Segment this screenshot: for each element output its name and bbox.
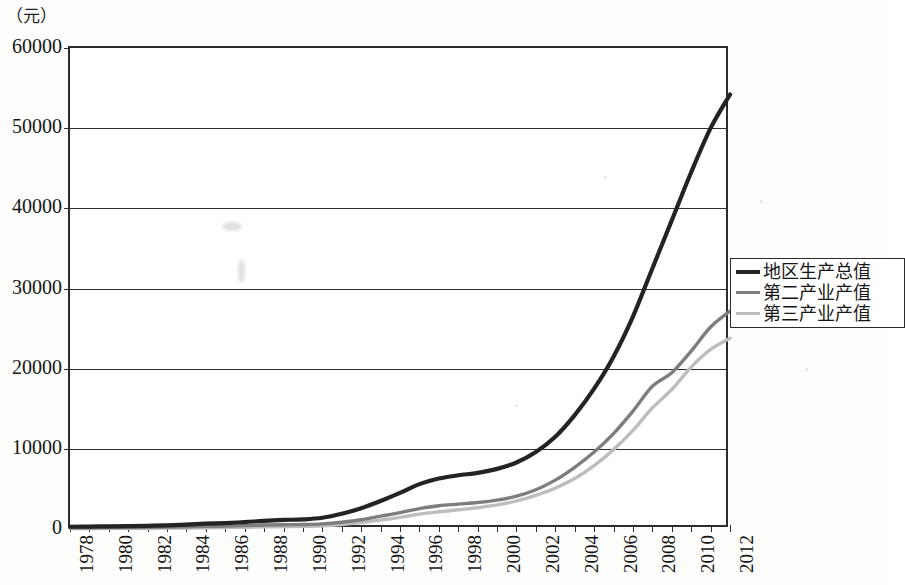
y-axis-tick-label: 50000 [0, 116, 62, 136]
x-axis-tick-label: 1992 [349, 535, 368, 573]
x-axis-tick-label: 1978 [77, 535, 96, 573]
x-axis-tick-labels: 1978198019821984198619881990199219941996… [68, 529, 728, 585]
legend-swatch-icon [736, 312, 760, 315]
legend-label: 第二产业产值 [763, 284, 871, 302]
legend-item[interactable]: 第三产业产值 [736, 303, 900, 324]
scan-speck [805, 368, 808, 371]
y-axis-tick-label: 40000 [0, 196, 62, 216]
legend-item[interactable]: 地区生产总值 [736, 261, 900, 282]
y-axis-tick-label: 20000 [0, 357, 62, 377]
legend-swatch-icon [736, 291, 760, 294]
x-axis-tick-label: 1984 [193, 535, 212, 573]
x-axis-tick-label: 2012 [737, 535, 756, 573]
series-lines [70, 48, 730, 529]
series-line [70, 311, 730, 528]
x-axis-tick-label: 2006 [621, 535, 640, 573]
x-axis-tick-label: 1986 [232, 535, 251, 573]
x-axis-tick-label: 1982 [155, 535, 174, 573]
chart-legend: 地区生产总值第二产业产值第三产业产值 [730, 258, 905, 328]
x-axis-tick-label: 1994 [388, 535, 407, 573]
legend-item[interactable]: 第二产业产值 [736, 282, 900, 303]
y-axis-tick-label: 30000 [0, 277, 62, 297]
y-axis-tick-label: 0 [0, 517, 62, 537]
x-axis-tick-label: 1980 [116, 535, 135, 573]
x-axis-tick-mark [730, 525, 731, 532]
y-axis-unit-label: （元） [6, 2, 57, 27]
y-axis-tick-label: 10000 [0, 437, 62, 457]
scan-speck [760, 200, 763, 203]
x-axis-tick-label: 1996 [426, 535, 445, 573]
series-line [70, 95, 730, 527]
y-axis-tick-label: 60000 [0, 36, 62, 56]
y-axis-tick-labels: 0100002000030000400005000060000 [0, 46, 62, 527]
x-axis-tick-label: 2008 [659, 535, 678, 573]
x-axis-tick-label: 1990 [310, 535, 329, 573]
series-line [70, 338, 730, 528]
x-axis-tick-label: 2010 [698, 535, 717, 573]
x-axis-tick-label: 2000 [504, 535, 523, 573]
plot-area [68, 46, 728, 527]
x-axis-tick-label: 2002 [543, 535, 562, 573]
legend-label: 地区生产总值 [763, 263, 871, 281]
legend-swatch-icon [736, 270, 760, 274]
legend-label: 第三产业产值 [763, 305, 871, 323]
x-axis-tick-label: 1988 [271, 535, 290, 573]
x-axis-tick-label: 2004 [582, 535, 601, 573]
x-axis-tick-label: 1998 [465, 535, 484, 573]
